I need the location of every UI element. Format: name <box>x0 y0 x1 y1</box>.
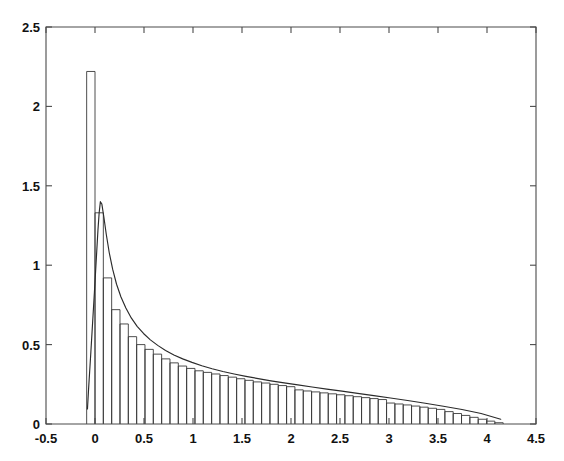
x-tick-label: 1 <box>189 431 196 446</box>
x-tick-label: 1.5 <box>233 431 251 446</box>
x-tick-label: 4.5 <box>527 431 545 446</box>
y-tick-label: 2 <box>33 99 40 114</box>
x-tick-label: -0.5 <box>35 431 57 446</box>
y-tick-label: 0 <box>33 417 40 432</box>
x-tick-label: 3 <box>385 431 392 446</box>
x-tick-label: 2 <box>287 431 294 446</box>
y-tick-label: 0.5 <box>22 338 40 353</box>
y-tick-label: 1 <box>33 258 40 273</box>
x-tick-label: 0.5 <box>135 431 153 446</box>
x-tick-label: 0 <box>91 431 98 446</box>
y-tick-label: 2.5 <box>22 20 40 35</box>
x-tick-label: 4 <box>483 431 491 446</box>
x-tick-label: 2.5 <box>331 431 349 446</box>
figure-container: -0.500.511.522.533.544.5 00.511.522.5 <box>0 0 564 461</box>
y-tick-label: 1.5 <box>22 179 40 194</box>
x-tick-label: 3.5 <box>429 431 447 446</box>
histogram-chart: -0.500.511.522.533.544.5 00.511.522.5 <box>0 0 564 461</box>
plot-background <box>0 0 564 461</box>
